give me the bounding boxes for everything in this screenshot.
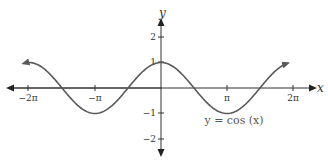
y-axis-label: y <box>158 6 166 20</box>
plot-canvas: −2π −π π 2π 2 1 −1 −2 y x y = cos (x) <box>0 0 328 162</box>
x-axis-label: x <box>317 81 324 95</box>
x-tick-label: π <box>224 93 230 103</box>
x-tick-label: −π <box>88 93 102 103</box>
equation-label: y = cos (x) <box>203 114 263 127</box>
x-tick-label: −2π <box>18 93 37 103</box>
y-tick-label: 2 <box>150 32 156 42</box>
x-tick-label: 2π <box>287 93 299 103</box>
cosine-graph: −2π −π π 2π 2 1 −1 −2 y x y = cos (x) <box>0 0 328 162</box>
y-tick-label: −1 <box>143 108 156 118</box>
y-tick-label: −2 <box>143 134 156 144</box>
